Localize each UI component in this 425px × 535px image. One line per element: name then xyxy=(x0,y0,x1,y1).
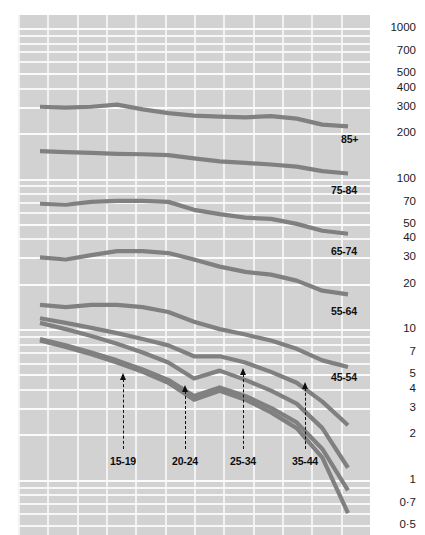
arrow-stem xyxy=(243,374,244,449)
series-label: 55-64 xyxy=(331,305,357,317)
y-tick-label: 200 xyxy=(397,127,416,138)
y-tick-label: 7 xyxy=(410,346,416,357)
y-tick-label: 3 xyxy=(410,402,416,413)
annotation-label: 15-19 xyxy=(110,455,136,467)
y-axis-tick-labels: 1000700500400300200100705040302010754321… xyxy=(372,0,425,535)
y-tick-label: 1 xyxy=(410,474,416,485)
series-label: 85+ xyxy=(341,133,358,145)
y-tick-label: 300 xyxy=(397,101,416,112)
series-label: 65-74 xyxy=(331,245,357,257)
arrow-stem xyxy=(305,388,306,449)
y-tick-label: 10 xyxy=(403,323,416,334)
series-line-55-64 xyxy=(40,251,348,294)
annotation-label: 25-34 xyxy=(230,455,256,467)
y-tick-label: 1000 xyxy=(390,22,416,33)
y-tick-label: 500 xyxy=(397,67,416,78)
y-tick-label: 400 xyxy=(397,82,416,93)
y-tick-label: 100 xyxy=(397,173,416,184)
y-tick-label: 40 xyxy=(403,232,416,243)
series-label: 45-54 xyxy=(331,371,357,383)
y-tick-label: 70 xyxy=(403,196,416,207)
y-tick-label: 0·5 xyxy=(399,519,416,530)
y-tick-label: 30 xyxy=(403,251,416,262)
series-line-20-24 xyxy=(40,339,348,490)
y-tick-label: 2 xyxy=(410,428,416,439)
plot-area: 85+75-8465-7455-6445-54 15-1920-2425-343… xyxy=(18,15,370,535)
y-tick-label: 0·7 xyxy=(399,497,416,508)
arrow-stem xyxy=(123,379,124,449)
y-tick-label: 700 xyxy=(397,45,416,56)
series-line-75-84 xyxy=(40,151,348,173)
series-label: 75-84 xyxy=(331,184,357,196)
mortality-log-chart: 85+75-8465-7455-6445-54 15-1920-2425-343… xyxy=(0,0,425,535)
y-tick-label: 5 xyxy=(410,368,416,379)
series-line-85- xyxy=(40,105,348,127)
arrow-stem xyxy=(185,391,186,449)
y-tick-label: 50 xyxy=(403,218,416,229)
annotation-label: 20-24 xyxy=(172,455,198,467)
y-tick-label: 20 xyxy=(403,278,416,289)
y-tick-label: 4 xyxy=(410,383,416,394)
series-line-65-74 xyxy=(40,201,348,234)
annotation-label: 35-44 xyxy=(292,455,318,467)
